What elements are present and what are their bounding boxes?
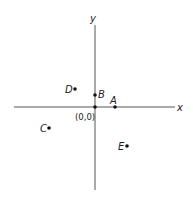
y-axis-label: y (89, 13, 97, 24)
point-b-label: B (98, 89, 105, 100)
point-e (125, 144, 129, 148)
point-c (47, 126, 51, 130)
point-e-label: E (118, 141, 125, 152)
origin-point (93, 105, 97, 109)
point-d-label: D (65, 84, 73, 95)
point-a-label: A (109, 95, 117, 106)
origin-label: (0,0) (75, 112, 95, 122)
point-c-label: C (40, 123, 47, 134)
x-axis-label: x (176, 102, 183, 113)
point-d (73, 87, 77, 91)
coordinate-plane: x y (0,0) B A D C E (0, 0, 193, 198)
point-b (93, 93, 97, 97)
